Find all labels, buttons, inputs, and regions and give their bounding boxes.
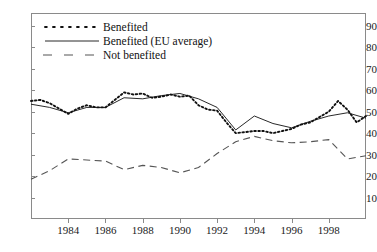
chart-container: 102030405060708090 198419861988199019921… bbox=[0, 0, 377, 252]
chart-legend: BenefitedBenefited (EU average)Not benef… bbox=[43, 20, 233, 62]
legend-item[interactable]: Benefited bbox=[43, 20, 233, 34]
legend-swatch-dashed-icon bbox=[43, 49, 101, 61]
legend-swatch-dotted-icon bbox=[43, 21, 101, 33]
legend-swatch-solid-icon bbox=[43, 35, 101, 47]
legend-label: Not benefited bbox=[101, 49, 166, 61]
series-line-2 bbox=[31, 136, 366, 179]
legend-label: Benefited (EU average) bbox=[101, 35, 212, 47]
legend-item[interactable]: Not benefited bbox=[43, 48, 233, 62]
legend-label: Benefited bbox=[101, 21, 148, 33]
series-line-1 bbox=[31, 93, 366, 129]
legend-item[interactable]: Benefited (EU average) bbox=[43, 34, 233, 48]
